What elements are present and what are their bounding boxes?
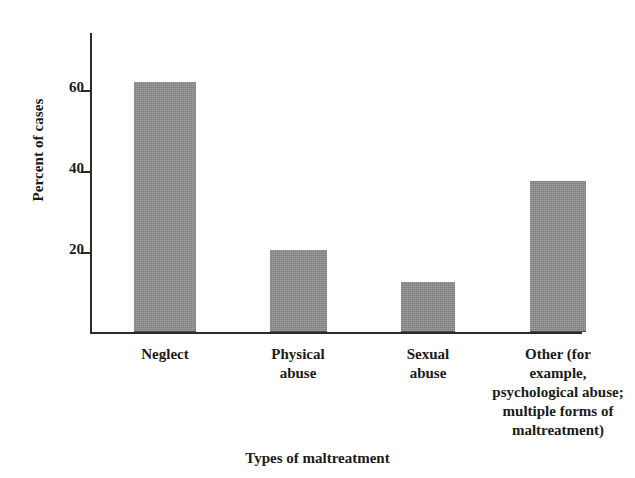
category-label-line: abuse [233,364,363,383]
y-tick-label: 40 [69,160,84,177]
x-axis-line [90,332,582,334]
category-label-other: Other (forexample,psychological abuse;mu… [458,345,635,440]
category-label-line: example, [458,364,635,383]
bar-neglect [134,82,196,332]
category-label-line: Other (for [458,345,635,364]
category-label-line: Neglect [100,345,230,364]
bar-sexual-abuse [401,282,455,332]
bar-chart-figure: Percent of cases 60 40 20 Neglect Physic… [0,0,635,478]
y-axis-title: Percent of cases [24,0,52,300]
category-label-line: Physical [233,345,363,364]
plot-area: 60 40 20 [90,33,582,333]
category-label-line: multiple forms of [458,402,635,421]
bar-other [530,181,586,332]
bar-physical-abuse [270,250,327,332]
category-label-neglect: Neglect [100,345,230,364]
y-tick-label: 20 [69,241,84,258]
category-label-line: maltreatment) [458,421,635,440]
y-tick-label: 60 [69,79,84,96]
x-axis-title: Types of maltreatment [0,450,635,467]
category-label-physical-abuse: Physicalabuse [233,345,363,383]
category-label-line: psychological abuse; [458,383,635,402]
y-axis-line [90,33,92,333]
